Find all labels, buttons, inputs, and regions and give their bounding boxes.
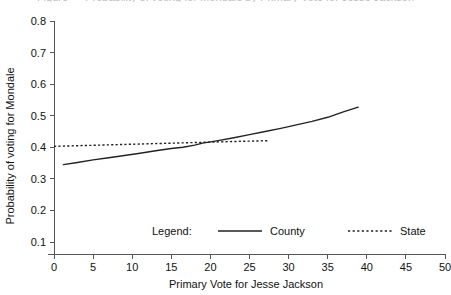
x-axis-title: Primary Vote for Jesse Jackson <box>169 278 323 290</box>
data-series-group <box>54 107 358 164</box>
legend-title: Legend: <box>152 225 192 237</box>
y-tick-label: 0.1 <box>31 236 46 248</box>
x-tick-label: 30 <box>282 261 294 273</box>
x-tick-label: 50 <box>439 261 451 273</box>
x-tick-label: 45 <box>400 261 412 273</box>
legend-label-county: County <box>270 225 305 237</box>
x-tick-label: 35 <box>322 261 334 273</box>
x-tick-label: 5 <box>90 261 96 273</box>
y-tick-label: 0.6 <box>31 78 46 90</box>
x-tick-label: 40 <box>361 261 373 273</box>
x-tick-label: 10 <box>126 261 138 273</box>
chart-legend: Legend:CountyState <box>152 225 426 237</box>
y-tick-label: 0.4 <box>31 141 46 153</box>
x-tick-label: 20 <box>204 261 216 273</box>
y-tick-label: 0.2 <box>31 204 46 216</box>
x-axis: 05101520253035404550 <box>48 254 451 273</box>
y-tick-label: 0.8 <box>31 15 46 27</box>
y-axis: 0.10.20.30.40.50.60.70.8 <box>31 15 54 254</box>
y-tick-label: 0.3 <box>31 173 46 185</box>
series-line-county <box>63 107 358 164</box>
y-tick-label: 0.5 <box>31 110 46 122</box>
y-tick-label: 0.7 <box>31 47 46 59</box>
x-tick-label: 25 <box>243 261 255 273</box>
y-axis-title: Probability of voting for Mondale <box>4 67 16 224</box>
x-tick-label: 15 <box>165 261 177 273</box>
line-chart-canvas: 0.10.20.30.40.50.60.70.8 051015202530354… <box>0 0 451 295</box>
chart-figure: Figure — Probability of voting for Monda… <box>0 0 451 295</box>
series-line-state <box>54 141 269 147</box>
legend-label-state: State <box>400 225 426 237</box>
x-tick-label: 0 <box>51 261 57 273</box>
